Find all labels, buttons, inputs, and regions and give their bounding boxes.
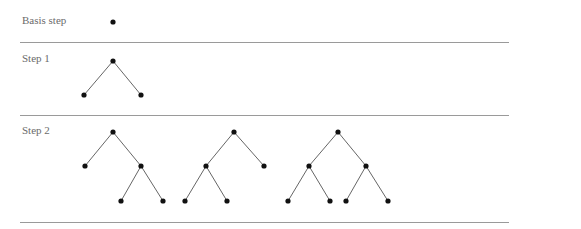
tree-node (182, 198, 187, 203)
tree-edge (113, 61, 141, 95)
tree-edge (338, 132, 366, 166)
tree-node (385, 198, 390, 203)
tree-edge (206, 166, 227, 201)
tree-edge (85, 132, 113, 166)
tree-row1-0 (81, 58, 143, 97)
tree-edge (346, 166, 366, 201)
tree-node (110, 19, 115, 24)
tree-node (343, 198, 348, 203)
tree-node (327, 198, 332, 203)
tree-row2-1 (182, 129, 266, 203)
tree-node (138, 163, 143, 168)
tree-edge (366, 166, 388, 201)
tree-edge (206, 132, 234, 166)
tree-node (224, 198, 229, 203)
tree-node (231, 129, 236, 134)
tree-edge (113, 132, 141, 166)
tree-edge (234, 132, 264, 166)
tree-row2-2 (285, 129, 390, 203)
tree-node (160, 198, 165, 203)
tree-edge (309, 166, 330, 201)
tree-node (335, 129, 340, 134)
tree-node (261, 163, 266, 168)
tree-node (203, 163, 208, 168)
tree-node (110, 58, 115, 63)
tree-node (363, 163, 368, 168)
tree-edge (84, 61, 113, 95)
tree-node (306, 163, 311, 168)
tree-node (118, 198, 123, 203)
tree-edge (288, 166, 309, 201)
tree-edge (141, 166, 163, 201)
tree-node (82, 163, 87, 168)
tree-edge (185, 166, 206, 201)
tree-row2-0 (82, 129, 165, 203)
tree-node (81, 92, 86, 97)
tree-edge (309, 132, 338, 166)
tree-node (138, 92, 143, 97)
tree-diagram (0, 0, 581, 229)
tree-node (110, 129, 115, 134)
tree-node (285, 198, 290, 203)
tree-edge (121, 166, 141, 201)
tree-row0-0 (110, 19, 115, 24)
